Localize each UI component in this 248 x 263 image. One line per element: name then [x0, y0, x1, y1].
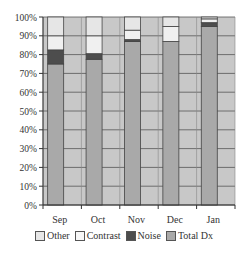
bar-segment-total-dx: [124, 41, 140, 205]
legend-label-total-dx: Total Dx: [178, 230, 213, 241]
bar-segment-total-dx: [86, 59, 102, 205]
y-tick-label: 60%: [20, 88, 38, 98]
x-tick-label: Sep: [52, 214, 67, 225]
y-tick-label: 100%: [15, 13, 37, 23]
x-tick-label: Nov: [128, 214, 145, 225]
bar-segment-contrast: [124, 30, 140, 39]
y-tick-label: 30%: [20, 144, 38, 154]
y-tick-label: 40%: [20, 125, 38, 135]
bar-segment-total-dx: [201, 26, 217, 205]
legend-label-contrast: Contrast: [87, 230, 121, 241]
x-tick-label: Oct: [91, 214, 106, 225]
x-tick-label: Dec: [167, 214, 184, 225]
bar-segment-contrast: [201, 19, 217, 23]
legend-swatch-contrast: [75, 231, 85, 241]
bar-segment-total-dx: [163, 41, 179, 205]
bar-segment-contrast: [163, 26, 179, 41]
plot-area: [43, 17, 235, 205]
legend-item-total-dx: Total Dx: [166, 230, 213, 241]
legend-item-other: Other: [35, 230, 70, 241]
bar-segment-other: [48, 17, 64, 36]
y-tick-label: 70%: [20, 69, 38, 79]
bar-segment-total-dx: [48, 64, 64, 205]
legend: Other Contrast Noise Total Dx: [0, 230, 248, 241]
y-tick-label: 0%: [24, 201, 37, 211]
legend-swatch-other: [35, 231, 45, 241]
stacked-bar-chart: 0%10%20%30%40%50%60%70%80%90%100% SepOct…: [0, 0, 248, 263]
y-axis: 0%10%20%30%40%50%60%70%80%90%100%: [15, 13, 43, 211]
y-tick-label: 50%: [20, 107, 38, 117]
x-axis: SepOctNovDecJan: [43, 205, 235, 225]
bar-segment-noise: [86, 54, 102, 60]
y-tick-label: 80%: [20, 50, 38, 60]
legend-label-other: Other: [47, 230, 70, 241]
legend-label-noise: Noise: [138, 230, 161, 241]
bar-segment-contrast: [48, 36, 64, 50]
bar-segment-noise: [48, 50, 64, 64]
legend-item-contrast: Contrast: [75, 230, 121, 241]
y-tick-label: 20%: [20, 163, 38, 173]
bar-segment-other: [124, 17, 140, 30]
y-tick-label: 90%: [20, 31, 38, 41]
bar-segment-noise: [201, 23, 217, 27]
bar-segment-contrast: [86, 36, 102, 54]
bar-segment-other: [201, 17, 217, 19]
legend-swatch-noise: [126, 231, 136, 241]
y-tick-label: 10%: [20, 182, 38, 192]
bar-segment-other: [86, 17, 102, 36]
legend-item-noise: Noise: [126, 230, 161, 241]
bar-segment-other: [163, 17, 179, 26]
x-tick-label: Jan: [207, 214, 220, 225]
legend-swatch-total-dx: [166, 231, 176, 241]
